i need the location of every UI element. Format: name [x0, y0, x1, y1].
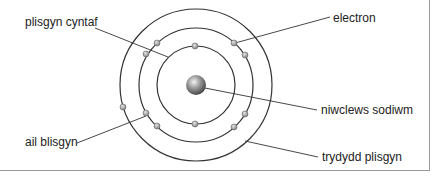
second-shell-leader: [77, 116, 146, 143]
electron: [242, 111, 248, 117]
electron: [192, 43, 198, 49]
electron: [120, 104, 126, 110]
electron: [192, 121, 198, 127]
electron: [154, 40, 160, 46]
label-nucleus: niwclews sodiwm: [321, 103, 413, 117]
electron: [231, 40, 237, 46]
label-third-shell: trydydd plisgyn: [322, 150, 402, 164]
third-shell-electrons: [120, 104, 126, 110]
label-second-shell: ail blisgyn: [25, 135, 78, 149]
label-first-shell: plisgyn cyntaf: [25, 15, 98, 29]
nucleus: [186, 75, 206, 95]
nucleus-leader: [205, 88, 317, 110]
electron: [143, 110, 149, 116]
electron: [242, 52, 248, 58]
electron: [143, 51, 149, 57]
electron: [154, 123, 160, 129]
third-shell-leader: [245, 141, 318, 157]
electron: [231, 124, 237, 130]
label-electron: electron: [333, 11, 376, 25]
